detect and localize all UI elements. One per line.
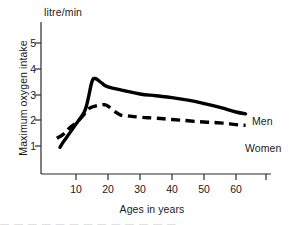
series-label-men: Men [252, 115, 273, 127]
series-line-men [60, 78, 246, 147]
chart-figure: litre/min Maximum oxygen intake Ages in … [0, 0, 304, 225]
y-axis-ticks [35, 43, 41, 146]
x-axis-ticks [76, 174, 266, 180]
series-label-women: Women [245, 142, 282, 154]
plot-area [0, 0, 304, 225]
scan-artifact-text: — — — — — — — — — — — — — [0, 219, 304, 225]
axis-lines [41, 22, 271, 174]
